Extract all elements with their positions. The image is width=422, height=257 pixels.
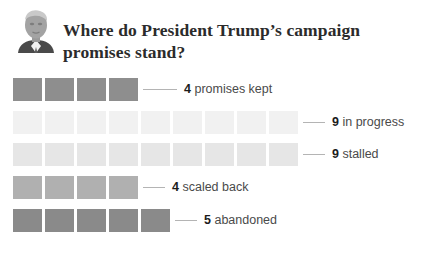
unit-block (13, 78, 42, 101)
row-count: 4 (184, 82, 191, 96)
chart-row: 9 in progress (13, 111, 404, 134)
unit-block (141, 143, 170, 166)
unit-block (13, 143, 42, 166)
unit-block (45, 111, 74, 134)
row-category: promises kept (191, 82, 272, 96)
unit-block (237, 143, 266, 166)
row-category: abandoned (211, 213, 277, 227)
unit-block (205, 111, 234, 134)
unit-block (205, 143, 234, 166)
unit-block (77, 209, 106, 232)
unit-block-group (13, 143, 301, 166)
row-count: 5 (204, 213, 211, 227)
infographic-header: Where do President Trump’s campaign prom… (0, 0, 422, 62)
unit-block (45, 176, 74, 199)
unit-block (77, 111, 106, 134)
unit-block (45, 209, 74, 232)
unit-block (13, 176, 42, 199)
unit-block (173, 111, 202, 134)
row-count: 9 (332, 115, 339, 129)
unit-block (45, 143, 74, 166)
unit-block (141, 209, 170, 232)
unit-block (109, 78, 138, 101)
unit-block (269, 143, 298, 166)
unit-block (13, 111, 42, 134)
row-label: 5 abandoned (204, 209, 277, 232)
unit-block (109, 176, 138, 199)
unit-block (269, 111, 298, 134)
leader-line (143, 187, 165, 188)
unit-block (77, 78, 106, 101)
row-category: stalled (339, 147, 379, 161)
row-label: 9 in progress (332, 111, 404, 134)
leader-line (143, 89, 177, 90)
unit-block-group (13, 78, 141, 101)
leader-line (175, 220, 197, 221)
trump-headshot-avatar (14, 5, 58, 53)
row-label: 9 stalled (332, 143, 379, 166)
chart-row: 5 abandoned (13, 209, 277, 232)
unit-block-group (13, 176, 141, 199)
unit-block (109, 143, 138, 166)
avatar-icon (14, 5, 58, 53)
chart-row: 9 stalled (13, 143, 379, 166)
chart-row: 4 scaled back (13, 176, 248, 199)
row-label: 4 scaled back (172, 176, 248, 199)
unit-block (45, 78, 74, 101)
unit-block (141, 111, 170, 134)
row-category: scaled back (179, 180, 248, 194)
unit-block (77, 176, 106, 199)
unit-block-group (13, 209, 173, 232)
unit-block (109, 111, 138, 134)
chart-row: 4 promises kept (13, 78, 272, 101)
page-title: Where do President Trump’s campaign prom… (63, 19, 415, 63)
unit-block (77, 143, 106, 166)
unit-block (237, 111, 266, 134)
row-category: in progress (339, 115, 404, 129)
row-label: 4 promises kept (184, 78, 272, 101)
unit-block (173, 143, 202, 166)
unit-block (109, 209, 138, 232)
unit-block-group (13, 111, 301, 134)
promises-pictogram-chart: 4 promises kept9 in progress9 stalled4 s… (0, 64, 422, 254)
row-count: 9 (332, 147, 339, 161)
leader-line (303, 154, 325, 155)
leader-line (303, 122, 325, 123)
row-count: 4 (172, 180, 179, 194)
unit-block (13, 209, 42, 232)
